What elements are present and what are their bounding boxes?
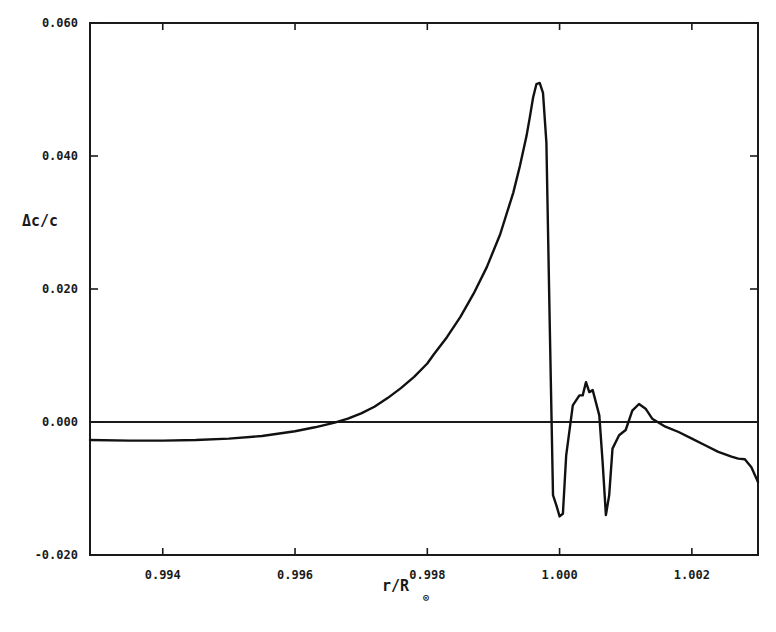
x-axis-label: r/R [382, 577, 410, 595]
y-tick-label: 0.000 [42, 415, 78, 429]
x-tick-label: 1.002 [674, 568, 710, 582]
data-series-line [90, 83, 758, 517]
x-tick-label: 1.000 [542, 568, 578, 582]
plot-frame [90, 23, 758, 555]
y-tick-label: -0.020 [35, 548, 78, 562]
plot-area [90, 23, 758, 555]
y-tick-label: 0.020 [42, 282, 78, 296]
y-axis-label: Δc/c [22, 212, 58, 230]
x-tick-label: 0.996 [277, 568, 313, 582]
x-axis: 0.9940.9960.9981.0001.002 [145, 23, 710, 582]
y-axis: 0.0600.0400.0200.000-0.020 [35, 16, 758, 562]
x-tick-label: 0.994 [145, 568, 181, 582]
line-chart: 0.9940.9960.9981.0001.002 0.0600.0400.02… [0, 0, 776, 632]
y-tick-label: 0.040 [42, 149, 78, 163]
x-tick-label: 0.998 [409, 568, 445, 582]
x-axis-label-subscript: ⊙ [423, 592, 429, 603]
y-tick-label: 0.060 [42, 16, 78, 30]
